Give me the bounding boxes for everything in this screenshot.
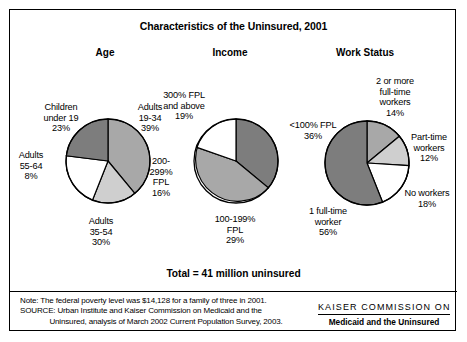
age-adults3554-line1: Adults	[73, 216, 129, 227]
work-label-two-or-more-full-time: 2 or more full-time workers 14%	[358, 76, 432, 118]
work-onefull-line1: 1 full-time	[296, 206, 360, 217]
age-adults5564-line1: Adults	[6, 150, 56, 161]
work-label-no-workers: No workers 18%	[396, 188, 458, 209]
income-fpl200-line3: FPL	[136, 177, 186, 188]
section-header-work: Work Status	[295, 47, 435, 58]
logo-subtitle: Medicaid and the Uninsured	[318, 315, 450, 327]
age-label-children: Children under 19 23%	[24, 102, 98, 134]
age-children-line2: under 19	[24, 113, 98, 124]
age-children-line1: Children	[24, 102, 98, 113]
income-fpl100199-line1: 100-199%	[195, 214, 275, 225]
income-fpl100199-value: 29%	[195, 235, 275, 246]
age-label-adults-55-64: Adults 55-64 8%	[6, 150, 56, 182]
age-adults3554-line2: 35-54	[73, 227, 129, 238]
note-line-3: Uninsured, analysis of March 2002 Curren…	[16, 317, 316, 327]
age-adults3554-value: 30%	[73, 237, 129, 248]
income-fpl100199-line2: FPL	[195, 225, 275, 236]
note-line-2: SOURCE: Urban Institute and Kaiser Commi…	[16, 306, 316, 316]
age-children-value: 23%	[24, 123, 98, 134]
kaiser-logo: KAISER COMMISSION ON Medicaid and the Un…	[318, 302, 450, 327]
source-note: Note: The federal poverty level was $14,…	[16, 296, 316, 327]
work-label-part-time: Part-time workers 12%	[399, 132, 459, 164]
total-line: Total = 41 million uninsured	[10, 268, 457, 279]
income-fpl200-line2: 299%	[136, 167, 186, 178]
work-parttime-line1: Part-time	[399, 132, 459, 143]
work-onefull-line2: worker	[296, 217, 360, 228]
age-label-adults-35-54: Adults 35-54 30%	[73, 216, 129, 248]
income-fpl200-value: 16%	[136, 188, 186, 199]
footer-divider	[10, 291, 457, 292]
income-fpl300-line2: and above	[148, 101, 220, 112]
age-adults5564-line2: 55-64	[6, 161, 56, 172]
pie-chart-income	[190, 115, 282, 207]
work-parttime-value: 12%	[399, 153, 459, 164]
work-twoplus-value: 14%	[358, 108, 432, 119]
income-label-300-fpl: 300% FPL and above 19%	[148, 90, 220, 122]
note-line-1: Note: The federal poverty level was $14,…	[16, 296, 316, 306]
section-header-age: Age	[40, 47, 170, 58]
work-twoplus-line3: workers	[358, 97, 432, 108]
work-noworkers-line1: No workers	[396, 188, 458, 199]
section-header-income: Income	[165, 47, 295, 58]
work-noworkers-value: 18%	[396, 199, 458, 210]
logo-title: KAISER COMMISSION ON	[318, 302, 450, 315]
page-title: Characteristics of the Uninsured, 2001	[10, 20, 457, 32]
work-twoplus-line1: 2 or more	[358, 76, 432, 87]
chart-frame: Characteristics of the Uninsured, 2001 A…	[9, 9, 456, 331]
work-onefull-value: 56%	[296, 227, 360, 238]
work-label-one-full-time: 1 full-time worker 56%	[296, 206, 360, 238]
age-adults1934-value: 39%	[122, 123, 178, 134]
income-label-100-199-fpl: 100-199% FPL 29%	[195, 214, 275, 246]
work-twoplus-line2: full-time	[358, 87, 432, 98]
income-fpl300-value: 19%	[148, 111, 220, 122]
income-label-200-299-fpl: 200- 299% FPL 16%	[136, 156, 186, 198]
income-fpl200-line1: 200-	[136, 156, 186, 167]
age-adults5564-value: 8%	[6, 171, 56, 182]
work-parttime-line2: workers	[399, 143, 459, 154]
income-fpl300-line1: 300% FPL	[148, 90, 220, 101]
